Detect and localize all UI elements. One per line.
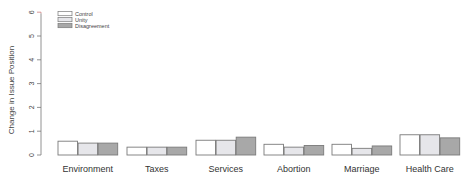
bar-disagreement <box>372 146 392 155</box>
bar-control <box>264 144 284 155</box>
x-category-label: Services <box>209 164 244 174</box>
legend-swatch <box>58 24 72 28</box>
legend-label: Disagreement <box>75 23 110 29</box>
y-tick-label: 4 <box>28 58 35 62</box>
y-axis-title: Change in Issue Position <box>7 46 16 135</box>
bar-control <box>400 135 420 155</box>
bar-group-services <box>196 137 256 155</box>
bar-group-abortion <box>264 144 324 155</box>
bar-control <box>196 140 216 155</box>
x-category-label: Marriage <box>344 164 380 174</box>
bar-disagreement <box>304 145 324 155</box>
x-category-label: Environment <box>63 164 114 174</box>
bar-group-marriage <box>332 144 392 155</box>
y-tick-label: 0 <box>28 153 35 157</box>
x-category-label: Abortion <box>277 164 311 174</box>
bar-control <box>332 144 352 155</box>
bar-unity <box>78 143 98 155</box>
x-axis-labels: EnvironmentTaxesServicesAbortionMarriage… <box>63 164 454 174</box>
bar-group-environment <box>58 141 118 155</box>
bar-disagreement <box>236 137 256 155</box>
x-category-label: Taxes <box>145 164 169 174</box>
legend-swatch <box>58 12 72 16</box>
bar-group-taxes <box>127 147 187 155</box>
bar-unity <box>352 148 372 155</box>
chart-canvas: 0123456 Change in Issue Position Environ… <box>0 0 470 181</box>
bar-group-health-care <box>400 135 460 155</box>
legend: ControlUnityDisagreement <box>58 11 110 29</box>
grouped-bar-chart: 0123456 Change in Issue Position Environ… <box>0 0 470 181</box>
bar-unity <box>147 147 167 155</box>
x-category-label: Health Care <box>406 164 454 174</box>
y-axis: 0123456 <box>28 10 41 157</box>
y-tick-label: 1 <box>28 129 35 133</box>
legend-swatch <box>58 18 72 22</box>
bar-unity <box>420 135 440 155</box>
y-tick-label: 6 <box>28 10 35 14</box>
bar-control <box>58 141 78 155</box>
bars-group <box>58 135 460 155</box>
bar-unity <box>216 140 236 155</box>
y-tick-label: 2 <box>28 105 35 109</box>
y-tick-label: 5 <box>28 34 35 38</box>
legend-item-disagreement: Disagreement <box>58 23 110 29</box>
bar-control <box>127 147 147 155</box>
bar-disagreement <box>167 147 187 155</box>
bar-disagreement <box>440 138 460 155</box>
y-tick-label: 3 <box>28 82 35 86</box>
bar-disagreement <box>98 143 118 155</box>
bar-unity <box>284 147 304 155</box>
